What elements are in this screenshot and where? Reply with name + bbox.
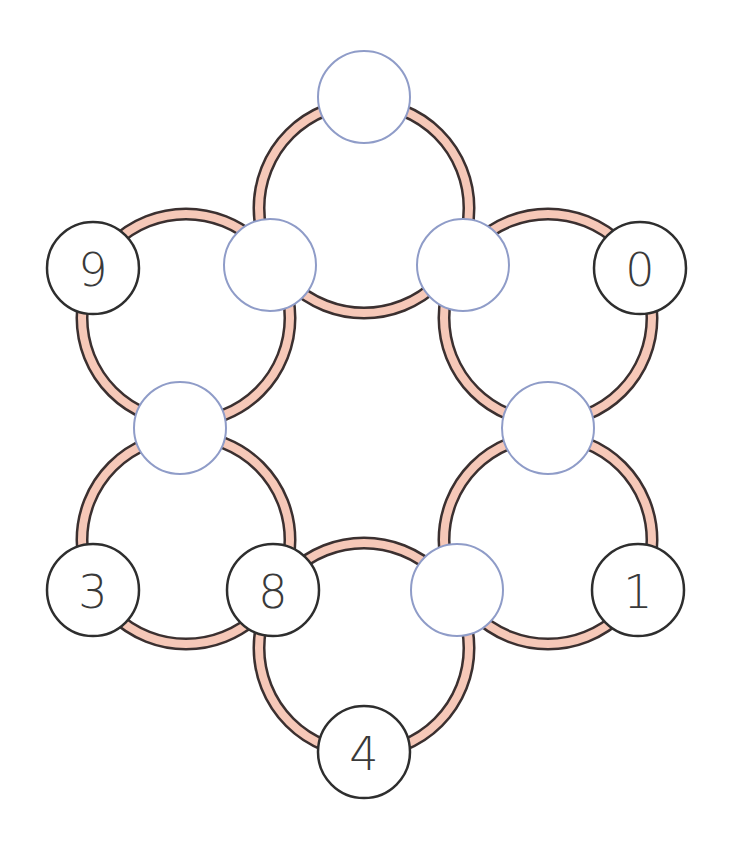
node-number: 0 (625, 243, 654, 297)
answer-circle[interactable] (502, 382, 594, 474)
answer-circle[interactable] (417, 219, 509, 311)
nodes-layer: 903814 (47, 51, 686, 798)
node-number: 9 (78, 243, 107, 297)
empty-node-upper-left-inner[interactable] (224, 219, 316, 311)
empty-node-lower-right-inner[interactable] (411, 544, 503, 636)
empty-node-middle-right[interactable] (502, 382, 594, 474)
given-node-bottom: 4 (318, 706, 410, 798)
given-node-left-outer-bottom: 3 (47, 544, 139, 636)
given-node-lower-left-inner: 8 (227, 544, 319, 636)
empty-node-upper-right-inner[interactable] (417, 219, 509, 311)
answer-circle[interactable] (318, 51, 410, 143)
node-number: 4 (349, 727, 378, 781)
given-node-right-outer-top: 0 (594, 222, 686, 314)
given-node-right-outer-bottom: 1 (592, 544, 684, 636)
answer-circle[interactable] (411, 544, 503, 636)
given-node-left-outer-top: 9 (47, 222, 139, 314)
answer-circle[interactable] (224, 219, 316, 311)
node-number: 3 (78, 565, 107, 619)
empty-node-middle-left[interactable] (134, 382, 226, 474)
empty-node-top[interactable] (318, 51, 410, 143)
node-number: 8 (258, 565, 287, 619)
answer-circle[interactable] (134, 382, 226, 474)
node-number: 1 (623, 565, 652, 619)
ring-number-puzzle: 903814 (0, 0, 734, 850)
